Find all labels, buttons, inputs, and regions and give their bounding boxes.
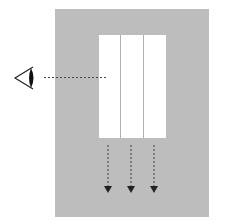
- window: [99, 35, 166, 138]
- window-opening: [99, 35, 166, 138]
- diagram-canvas: [0, 0, 229, 224]
- eye-icon: [15, 67, 34, 89]
